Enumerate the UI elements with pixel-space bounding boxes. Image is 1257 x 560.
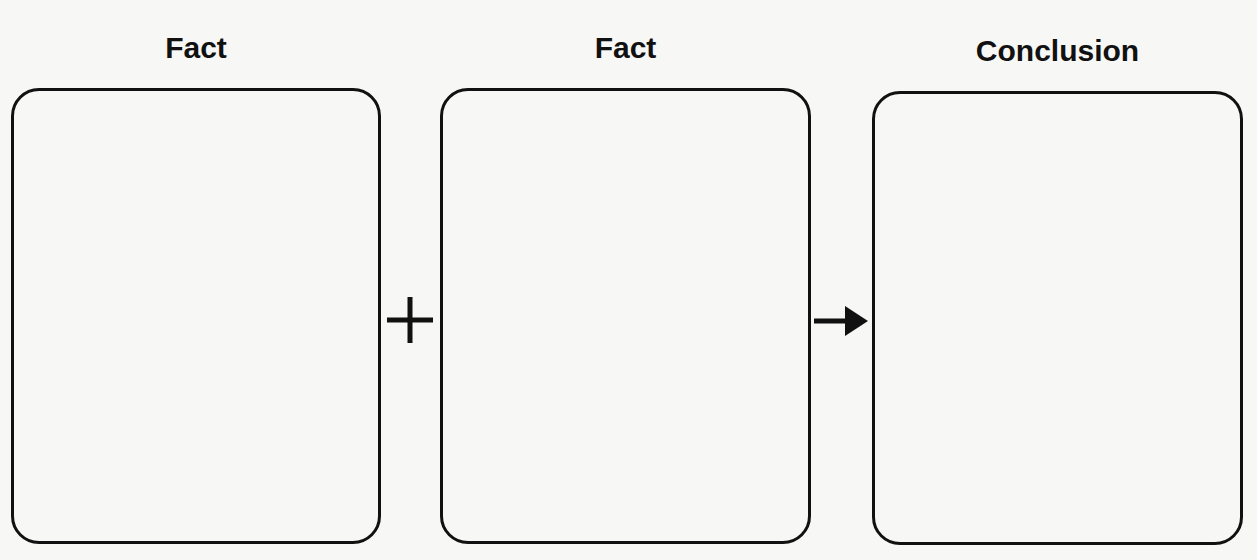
stage-label-fact-1: Fact: [11, 28, 381, 68]
plus-icon: [385, 295, 435, 345]
arrow-right-icon: [812, 304, 870, 338]
fact-box-2[interactable]: [440, 88, 811, 544]
stage-label-fact-2: Fact: [440, 28, 811, 68]
stage-label-conclusion: Conclusion: [872, 31, 1243, 71]
conclusion-box[interactable]: [872, 91, 1243, 545]
fact-box-1[interactable]: [11, 88, 381, 544]
